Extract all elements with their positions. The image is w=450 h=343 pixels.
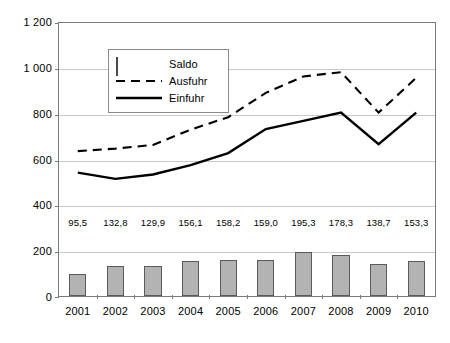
legend-swatch-bar-icon (116, 58, 162, 70)
x-tick-label-2004: 2004 (178, 305, 203, 317)
x-tick-label-2009: 2009 (366, 305, 391, 317)
y-tick-label-1000: 1 000 (23, 62, 52, 74)
line-einfuhr (78, 113, 416, 179)
x-tick-label-2005: 2005 (216, 305, 241, 317)
legend-item-saldo: Saldo (116, 55, 221, 72)
x-tick-label-2002: 2002 (103, 305, 128, 317)
y-tick-label-200: 200 (33, 245, 52, 257)
x-tick-label-2008: 2008 (328, 305, 353, 317)
legend-item-einfuhr: Einfuhr (116, 89, 221, 106)
y-tick-label-800: 800 (33, 108, 52, 120)
legend-label-einfuhr: Einfuhr (169, 92, 205, 104)
x-tick-label-2001: 2001 (65, 305, 90, 317)
legend-swatch-solid-line-icon (116, 92, 162, 104)
y-tick-label-0: 0 (46, 291, 52, 303)
legend-label-saldo: Saldo (169, 58, 198, 70)
x-tick-label-2007: 2007 (291, 305, 316, 317)
y-tick-0 (55, 297, 59, 298)
legend-label-ausfuhr: Ausfuhr (169, 75, 208, 87)
x-tick-label-2003: 2003 (140, 305, 165, 317)
plot-area: 95,5132,8129,9156,1158,2159,0195,3178,31… (58, 22, 436, 297)
legend-swatch-dashed-line-icon (116, 75, 162, 87)
x-tick-label-2006: 2006 (253, 305, 278, 317)
y-tick-label-400: 400 (33, 199, 52, 211)
y-tick-label-1200: 1 200 (23, 16, 52, 28)
legend-item-ausfuhr: Ausfuhr (116, 72, 221, 89)
x-tick-label-2010: 2010 (404, 305, 429, 317)
y-tick-label-600: 600 (33, 154, 52, 166)
chart-container: 1 200 1 000 800 600 400 200 0 (0, 0, 450, 343)
chart-legend: Saldo Ausfuhr Einfuhr (108, 49, 229, 113)
